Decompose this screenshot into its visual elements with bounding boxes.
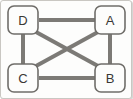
node-c-label: C [18,71,27,86]
node-b[interactable]: B [95,64,125,92]
node-d-label: D [18,13,27,28]
graph-diagram-canvas: D A C B [0,0,132,99]
graph-svg: D A C B [1,1,132,99]
node-a-label: A [106,13,115,28]
node-c[interactable]: C [8,64,38,92]
node-d[interactable]: D [8,6,38,34]
node-a[interactable]: A [95,6,125,34]
node-b-label: B [106,71,115,86]
